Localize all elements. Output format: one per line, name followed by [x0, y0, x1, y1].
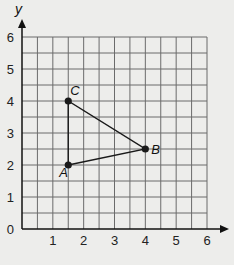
y-tick-label: 3 — [7, 126, 14, 141]
point-c — [65, 97, 72, 104]
axes — [18, 19, 229, 233]
x-tick-label: 2 — [80, 233, 87, 248]
point-label-b: B — [151, 142, 160, 157]
point-label-c: C — [70, 83, 80, 98]
y-tick-label: 6 — [7, 30, 14, 45]
y-tick-label: 0 — [7, 222, 14, 237]
coordinate-grid: 1234560123456 ABC y — [0, 0, 234, 265]
y-axis-arrow-icon — [18, 19, 26, 28]
point-label-a: A — [58, 165, 68, 180]
x-axis-arrow-icon — [220, 225, 229, 233]
x-tick-label: 1 — [49, 233, 56, 248]
y-tick-label: 5 — [7, 62, 14, 77]
grid-lines — [22, 37, 207, 229]
x-tick-label: 5 — [173, 233, 180, 248]
point-b — [142, 145, 149, 152]
y-tick-label: 2 — [7, 158, 14, 173]
x-tick-label: 3 — [111, 233, 118, 248]
x-tick-label: 4 — [142, 233, 149, 248]
y-tick-label: 4 — [7, 94, 14, 109]
y-tick-label: 1 — [7, 190, 14, 205]
y-axis-label: y — [14, 1, 23, 17]
x-tick-label: 6 — [203, 233, 210, 248]
